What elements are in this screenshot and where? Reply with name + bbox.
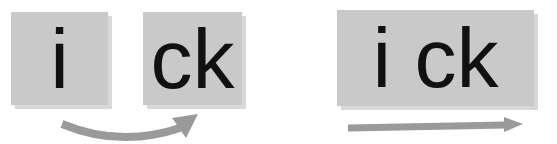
straight-arrow-icon bbox=[0, 0, 557, 144]
